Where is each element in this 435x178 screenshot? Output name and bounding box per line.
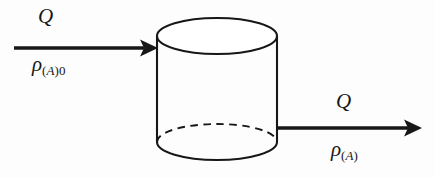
outlet-flow-arrow (277, 120, 422, 137)
diagram-canvas: Q ρ(A)0 Q ρ(A) (0, 0, 435, 178)
outlet-subscript-species: A (346, 148, 354, 163)
tank-bottom-back-arc (157, 124, 277, 142)
outlet-flow-rate-symbol: Q (336, 89, 351, 113)
tank-top-ellipse (157, 18, 277, 54)
flow-diagram-graphic (0, 0, 435, 178)
cylindrical-tank (157, 18, 277, 160)
inlet-subscript-species: A (47, 63, 55, 78)
outlet-subscript-close-paren: ) (354, 148, 358, 163)
inlet-density-subscript: (A)0 (42, 63, 66, 78)
inlet-density-symbol: ρ (32, 52, 42, 76)
inlet-flow-rate-label: Q (38, 6, 53, 27)
inlet-subscript-stream-index: 0 (59, 63, 66, 78)
outlet-density-subscript: (A) (341, 148, 358, 163)
outlet-density-symbol: ρ (331, 137, 341, 161)
outlet-flow-rate-label: Q (336, 91, 351, 112)
inlet-flow-rate-symbol: Q (38, 4, 53, 28)
outlet-density-label: ρ(A) (331, 139, 358, 162)
tank-bottom-front-arc (157, 142, 277, 160)
inlet-density-label: ρ(A)0 (32, 54, 66, 77)
